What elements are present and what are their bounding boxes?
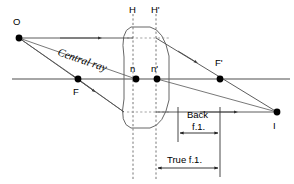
optics-ray-diagram: O I F F' H H' n n' Central ray Back f.1.…	[0, 0, 294, 184]
rear-focal-point-dot	[217, 76, 224, 83]
ray-parallel-outgoing-arrow	[178, 51, 196, 62]
label-image-point: I	[273, 120, 276, 131]
label-principal-plane-h-prime: H'	[151, 4, 160, 15]
front-nodal-point-dot	[133, 76, 140, 83]
label-object-point: O	[13, 16, 20, 27]
image-point-dot	[274, 109, 281, 116]
object-point-dot	[16, 35, 23, 42]
label-front-nodal-point: n	[130, 63, 135, 74]
central-ray-outgoing	[157, 79, 277, 112]
rear-nodal-point-dot	[154, 76, 161, 83]
ray-front-focus-continued	[78, 79, 124, 112]
label-back-focal-length-line2: f.1.	[192, 121, 205, 132]
label-rear-focal-point: F'	[215, 57, 223, 68]
label-true-focal-length: True f.1.	[167, 154, 202, 165]
label-back-focal-length-line1: Back	[187, 109, 208, 120]
ray-parallel-outgoing	[156, 38, 277, 112]
diagram-canvas: O I F F' H H' n n' Central ray Back f.1.…	[0, 0, 294, 184]
front-focal-point-dot	[75, 76, 82, 83]
label-rear-nodal-point: n'	[151, 63, 158, 74]
label-front-focal-point: F	[73, 86, 79, 97]
label-principal-plane-h: H	[129, 4, 136, 15]
